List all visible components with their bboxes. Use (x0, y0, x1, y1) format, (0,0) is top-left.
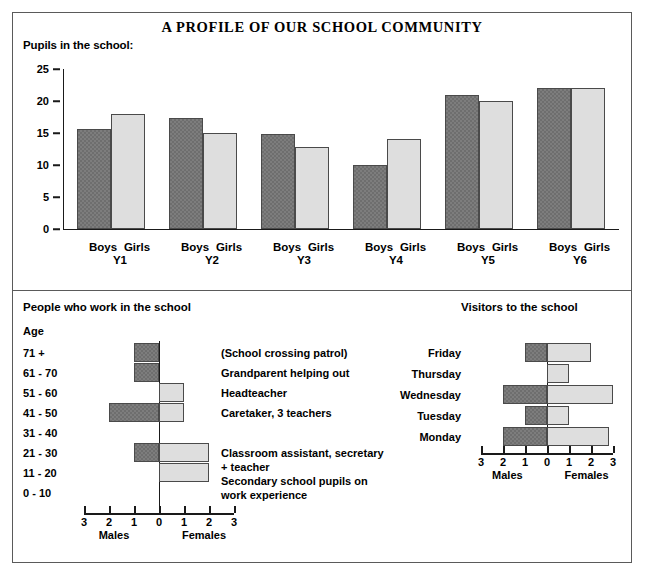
annotation-text: + teacher (221, 461, 270, 473)
bar-females-21-30 (159, 443, 209, 462)
group-labels: BoysGirlsY4 (347, 241, 439, 266)
x-axis-tick (134, 506, 136, 513)
x-axis-tick (159, 506, 161, 513)
workers-section-title: People who work in the school (23, 301, 191, 313)
x-axis-label-males: Males (472, 469, 542, 481)
bar-pair (163, 69, 255, 229)
sex-labels: BoysGirls (439, 241, 531, 253)
x-axis-number: 2 (99, 516, 119, 528)
bar-females-thursday (547, 364, 569, 383)
axis-label-boys: Boys (270, 241, 304, 253)
axis-label-girls: Girls (212, 241, 246, 253)
visitors-pyramid-chart: FridayThursdayWednesdayTuesdayMonday 321… (461, 343, 641, 543)
annotation-text: Caretaker, 3 teachers (221, 407, 332, 419)
bar-females-51-60 (159, 383, 184, 402)
x-axis-line (63, 229, 619, 230)
x-axis-tick (481, 446, 483, 453)
sex-labels: BoysGirls (347, 241, 439, 253)
bar-girls-y2 (203, 133, 237, 229)
group-labels: BoysGirlsY3 (255, 241, 347, 266)
year-label-y5: Y5 (439, 254, 531, 266)
bar-girls-y3 (295, 147, 329, 229)
bar-boys-y3 (261, 134, 295, 229)
y-tick-label: 0 (23, 223, 49, 235)
x-axis-label-females: Females (552, 469, 622, 481)
x-axis-label-females: Females (169, 529, 239, 541)
age-axis-heading: Age (23, 325, 44, 337)
bar-males-wednesday (503, 385, 547, 404)
x-axis-tick (525, 446, 527, 453)
y-tick-mark (53, 196, 60, 198)
y-tick-label: 20 (23, 95, 49, 107)
x-axis-number: 0 (537, 456, 557, 468)
x-axis-number: 3 (603, 456, 623, 468)
bar-females-wednesday (547, 385, 613, 404)
bar-pair (347, 69, 439, 229)
bar-group: BoysGirlsY1 (71, 69, 163, 229)
row-label-wednesday: Wednesday (399, 389, 461, 401)
y-tick-mark (53, 132, 60, 134)
center-axis-line (159, 341, 160, 511)
y-tick-mark (53, 100, 60, 102)
year-label-y6: Y6 (531, 254, 623, 266)
bar-pair (71, 69, 163, 229)
group-labels: BoysGirlsY6 (531, 241, 623, 266)
bar-males-21-30 (134, 443, 159, 462)
x-axis-number: 1 (559, 456, 579, 468)
annotation-text: Secondary school pupils on (221, 475, 368, 487)
x-axis-number: 2 (493, 456, 513, 468)
x-axis-number: 0 (149, 516, 169, 528)
year-label-y4: Y4 (347, 254, 439, 266)
x-axis-number: 1 (124, 516, 144, 528)
x-axis-number: 3 (224, 516, 244, 528)
bar-females-41-50 (159, 403, 184, 422)
visitors-section-title: Visitors to the school (461, 301, 578, 313)
row-label-monday: Monday (399, 431, 461, 443)
year-label-y2: Y2 (163, 254, 255, 266)
workers-pyramid-chart: Age 71 +61 - 7051 - 6041 - 5031 - 4021 -… (23, 325, 443, 550)
axis-label-girls: Girls (120, 241, 154, 253)
axis-label-girls: Girls (580, 241, 614, 253)
bar-boys-y2 (169, 118, 203, 229)
x-axis-tick (184, 506, 186, 513)
x-axis-tick (84, 506, 86, 513)
bar-girls-y1 (111, 114, 145, 229)
bar-males-61-70 (134, 363, 159, 382)
axis-label-girls: Girls (304, 241, 338, 253)
axis-label-boys: Boys (546, 241, 580, 253)
axis-label-boys: Boys (454, 241, 488, 253)
bar-girls-y4 (387, 139, 421, 229)
x-axis-tick (109, 506, 111, 513)
bar-males-friday (525, 343, 547, 362)
annotation-text: Grandparent helping out (221, 367, 349, 379)
bar-pair (531, 69, 623, 229)
row-label-thursday: Thursday (399, 368, 461, 380)
y-axis-line (63, 69, 64, 229)
bar-pair (439, 69, 531, 229)
x-axis-label-males: Males (79, 529, 149, 541)
axis-label-boys: Boys (86, 241, 120, 253)
x-axis-tick (569, 446, 571, 453)
axis-label-boys: Boys (178, 241, 212, 253)
x-axis-number: 3 (74, 516, 94, 528)
row-label-friday: Friday (399, 347, 461, 359)
section-divider (13, 290, 631, 291)
row-label-31-40: 31 - 40 (23, 427, 57, 439)
bar-males-71- (134, 343, 159, 362)
bar-females-friday (547, 343, 591, 362)
x-axis-tick (591, 446, 593, 453)
annotation-text: work experience (221, 489, 307, 501)
group-labels: BoysGirlsY2 (163, 241, 255, 266)
bar-girls-y5 (479, 101, 513, 229)
year-label-y3: Y3 (255, 254, 347, 266)
bar-females-11-20 (159, 463, 209, 482)
row-label-0-10: 0 - 10 (23, 487, 51, 499)
row-label-51-60: 51 - 60 (23, 387, 57, 399)
annotation-text: Headteacher (221, 387, 287, 399)
bar-boys-y6 (537, 88, 571, 229)
bar-boys-y5 (445, 95, 479, 229)
bar-group: BoysGirlsY3 (255, 69, 347, 229)
bar-group: BoysGirlsY5 (439, 69, 531, 229)
x-axis-number: 2 (581, 456, 601, 468)
x-axis-number: 2 (199, 516, 219, 528)
